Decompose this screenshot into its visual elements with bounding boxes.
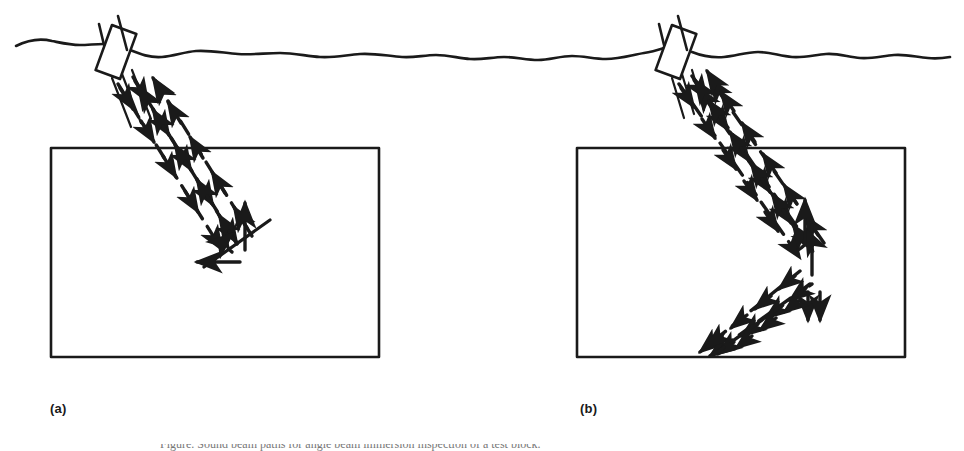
deflected-beam-b-arrowheads (707, 276, 806, 354)
panel-label-a: (a) (50, 401, 67, 416)
incident-beam-b (679, 76, 813, 258)
reflected-beam-a-arrowheads (138, 78, 247, 236)
reflected-beam-b-arrowheads (695, 71, 818, 244)
return-beam-b-arrowheads (736, 300, 800, 348)
reflected-beam-a (140, 80, 252, 244)
deflected-beam-b (700, 271, 810, 356)
panel-label-b: (b) (580, 401, 597, 416)
beam-path-diagram (0, 0, 964, 451)
corner-return-curve-a (227, 234, 232, 252)
test-block-b (577, 148, 905, 357)
water-surface-line (16, 40, 950, 60)
incident-beam-b-arrowheads (681, 80, 791, 231)
figure-container: (a) (b) Figure. Sound beam paths for ang… (0, 0, 964, 451)
inclined-reflector-a (204, 220, 270, 267)
caption-strip: Figure. Sound beam paths for angle beam … (0, 444, 964, 451)
incident-beam-a (118, 77, 237, 250)
caption-cutoff-text: Figure. Sound beam paths for angle beam … (160, 444, 541, 451)
downward-pair-arrows-b (808, 292, 820, 320)
